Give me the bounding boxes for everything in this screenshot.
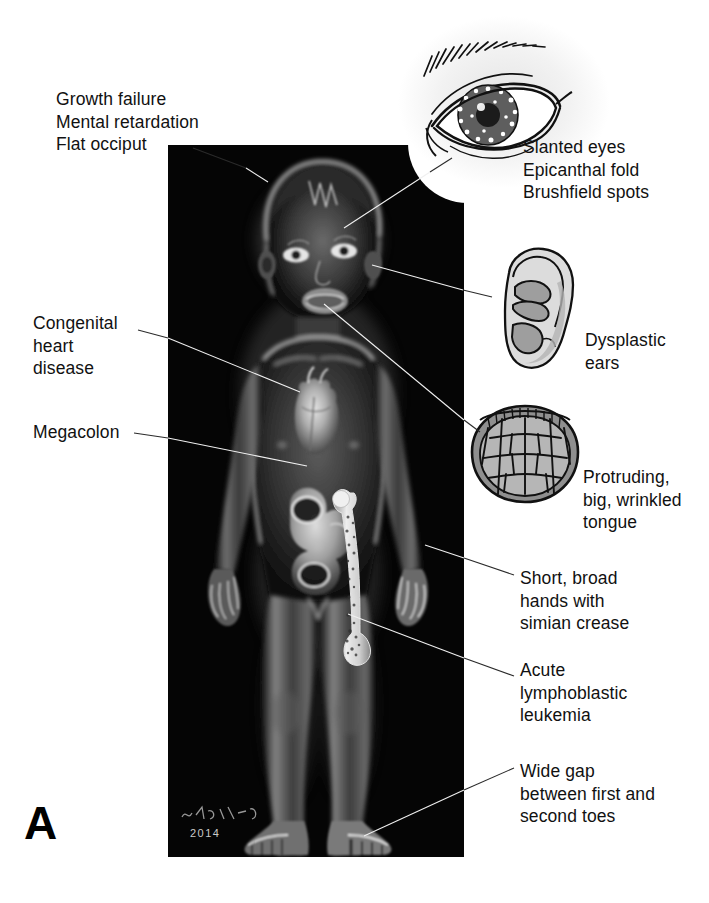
child-body-xray: 2014 [168,145,464,857]
label-acute-lymphoblastic-leukemia: Acute lymphoblastic leukemia [520,659,627,727]
label-wide-gap-toes: Wide gap between first and second toes [520,760,655,828]
svg-text:2014: 2014 [190,827,220,839]
label-megacolon: Megacolon [33,421,120,444]
illustration-page: 2014 [0,0,709,903]
label-congenital-heart-disease: Congenital heart disease [33,312,118,380]
label-protruding-tongue: Protruding, big, wrinkled tongue [583,466,682,534]
ear-inset [483,243,583,375]
label-dysplastic-ears: Dysplastic ears [585,329,666,374]
label-short-broad-hands: Short, broad hands with simian crease [520,567,629,635]
panel-letter: A [24,800,57,846]
radiograph-panel: 2014 [168,145,464,857]
label-growth-failure-group: Growth failure Mental retardation Flat o… [56,88,199,156]
label-slanted-eyes-group: Slanted eyes Epicanthal fold Brushfield … [523,136,649,204]
tongue-inset [466,402,584,508]
